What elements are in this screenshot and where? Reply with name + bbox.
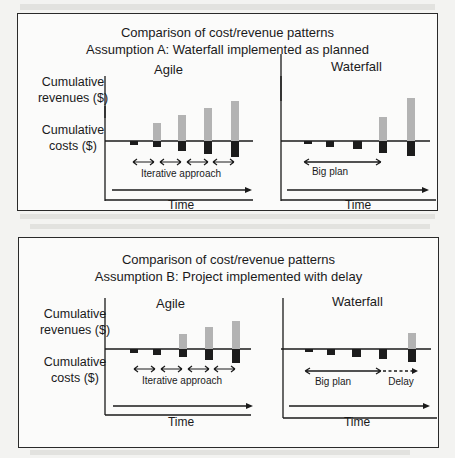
- waterfall-time-label: Time: [344, 415, 371, 429]
- big-plan-arrow: [304, 159, 381, 165]
- iteration-arrows: [134, 366, 235, 372]
- figure-a-agile-annotation: Iterative approach: [141, 168, 221, 179]
- figure-a-frame: Comparison of cost/revenue patterns Assu…: [17, 13, 438, 211]
- figure-a-chart: Iterative approach Time Big plan Time: [18, 14, 439, 212]
- figure-b-delay-annotation: Delay: [388, 376, 414, 387]
- agile-time-label: Time: [168, 198, 195, 212]
- figure-b-agile-annotation: Iterative approach: [142, 375, 222, 386]
- waterfall-time-label: Time: [345, 198, 372, 212]
- figure-b-waterfall-annotation: Big plan: [315, 376, 351, 387]
- figure-a-waterfall-annotation: Big plan: [312, 166, 348, 177]
- iteration-arrows: [133, 159, 234, 165]
- agile-time-label: Time: [168, 415, 195, 429]
- big-plan-arrow: [305, 368, 381, 374]
- agile-bars: [130, 321, 240, 363]
- figure-b-frame: Comparison of cost/revenue patterns Assu…: [18, 237, 439, 448]
- waterfall-bars: [305, 333, 416, 362]
- agile-bars: [130, 101, 239, 157]
- figure-b-chart: Iterative approach Time Big plan Delay T…: [19, 238, 440, 449]
- waterfall-bars: [304, 98, 415, 156]
